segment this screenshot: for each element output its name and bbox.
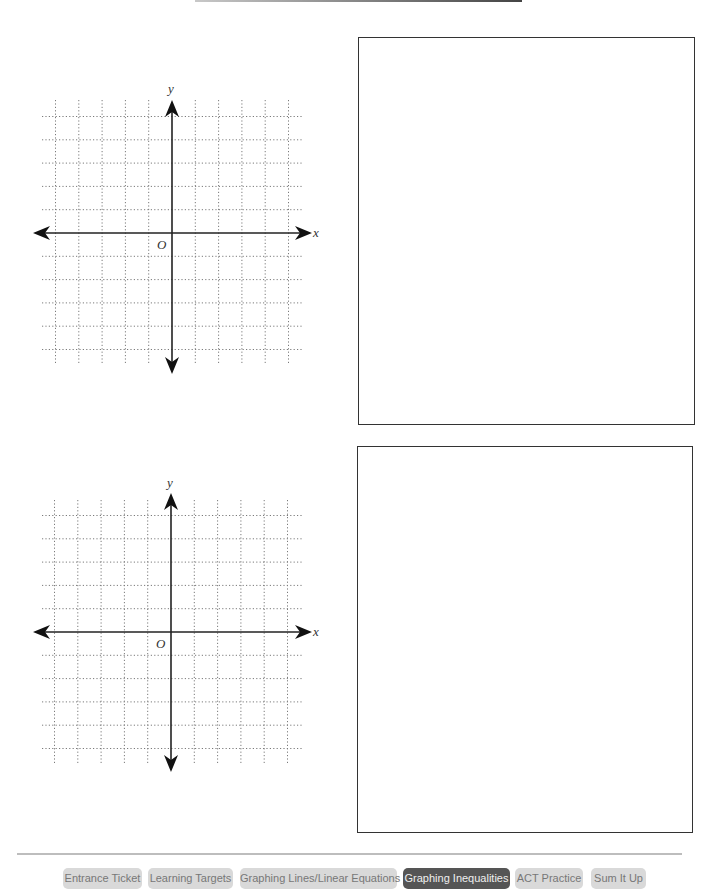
origin-label: O (157, 237, 167, 252)
answer-box-1[interactable] (358, 37, 695, 425)
y-axis-label: y (166, 81, 174, 96)
nav-graphing-lines[interactable]: Graphing Lines/Linear Equations (240, 868, 397, 889)
x-axis-label: x (312, 624, 319, 639)
nav-act-practice[interactable]: ACT Practice (515, 868, 583, 889)
coordinate-grid-1: x y O (0, 80, 340, 380)
origin-label: O (156, 636, 166, 651)
coordinate-grid-2: x y O (0, 478, 340, 778)
footer-divider (17, 853, 682, 855)
y-axis-label: y (165, 478, 173, 490)
nav-entrance-ticket[interactable]: Entrance Ticket (63, 868, 142, 889)
answer-box-2[interactable] (357, 446, 693, 833)
nav-sum-it-up[interactable]: Sum It Up (591, 868, 646, 889)
x-axis-label: x (312, 225, 319, 240)
coordinate-plane-2: x y O (0, 478, 340, 778)
nav-learning-targets[interactable]: Learning Targets (148, 868, 233, 889)
top-rule (195, 0, 522, 2)
coordinate-plane-1: x y O (0, 80, 340, 380)
nav-graphing-inequalities[interactable]: Graphing Inequalities (403, 868, 510, 889)
